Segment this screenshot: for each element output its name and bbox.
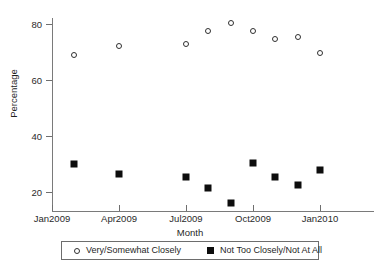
- data-point: [295, 34, 301, 40]
- data-point: [205, 28, 211, 34]
- data-point: [227, 200, 234, 207]
- filled-square-marker-icon: [207, 247, 214, 254]
- data-point: [250, 28, 256, 34]
- data-point: [71, 52, 77, 58]
- scatter-chart: 80 60 40 20 Jan2009 Apr2009 Jul2009 Oct2…: [0, 0, 380, 272]
- plot-area: [52, 18, 352, 211]
- data-point: [317, 50, 323, 56]
- data-point: [272, 173, 279, 180]
- data-point: [71, 161, 78, 168]
- y-axis-tick-label: 80: [14, 20, 42, 30]
- legend-entry-not-too-closely-not-at-all: Not Too Closely/Not At All: [207, 246, 322, 255]
- x-axis-title: Month: [0, 227, 380, 238]
- data-point: [182, 173, 189, 180]
- data-point: [294, 182, 301, 189]
- data-point: [228, 20, 234, 26]
- data-point: [116, 43, 122, 49]
- data-point: [115, 170, 122, 177]
- legend-entry-very-somewhat-closely: Very/Somewhat Closely: [74, 246, 181, 255]
- y-axis-title: Percentage: [8, 44, 19, 144]
- data-point: [183, 41, 189, 47]
- data-point: [272, 36, 278, 42]
- chart-legend: Very/Somewhat Closely Not Too Closely/No…: [61, 241, 319, 260]
- x-axis-tick-label: Oct2009: [235, 214, 271, 224]
- data-point: [249, 159, 256, 166]
- open-circle-marker-icon: [74, 248, 80, 254]
- x-axis-line: [52, 211, 374, 212]
- data-point: [205, 184, 212, 191]
- x-axis-tick-label: Jul2009: [169, 214, 202, 224]
- legend-label: Not Too Closely/Not At All: [220, 246, 322, 255]
- data-point: [316, 166, 323, 173]
- x-axis-tick-label: Jan2010: [302, 214, 338, 224]
- x-axis-tick-label: Jan2009: [34, 214, 70, 224]
- x-axis-tick-label: Apr2009: [101, 214, 137, 224]
- legend-label: Very/Somewhat Closely: [86, 246, 181, 255]
- y-axis-tick-label: 20: [14, 188, 42, 198]
